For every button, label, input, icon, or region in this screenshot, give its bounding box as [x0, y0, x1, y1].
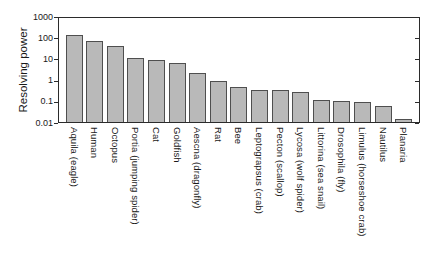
y-tick-mark-right — [415, 59, 419, 60]
bar — [189, 73, 206, 122]
y-tick-label: 1000 — [0, 12, 53, 23]
y-tick-mark-left — [54, 123, 58, 124]
y-tick-label: 10 — [0, 54, 53, 65]
category-label: Cat — [151, 127, 162, 142]
bar — [333, 101, 350, 122]
category-label: Lycosa (wolf spider) — [295, 127, 306, 213]
y-tick-label: 0.1 — [0, 96, 53, 107]
category-label: Rat — [213, 127, 224, 142]
bar — [86, 41, 103, 122]
y-tick-mark-left — [54, 102, 58, 103]
y-tick-mark-right — [415, 38, 419, 39]
y-tick-mark-right — [415, 17, 419, 18]
category-label: Bee — [233, 127, 244, 144]
category-label: Aescna (dragonfly) — [192, 127, 203, 209]
bar — [395, 119, 412, 122]
y-tick-mark-right — [415, 102, 419, 103]
bar — [148, 60, 165, 122]
bar — [354, 102, 371, 122]
bar — [292, 92, 309, 122]
y-tick-label: 0.01 — [0, 118, 53, 129]
category-label: Pecton (scallop) — [275, 127, 286, 197]
bar — [169, 63, 186, 122]
bar — [313, 100, 330, 122]
y-tick-mark-left — [54, 81, 58, 82]
bar — [272, 90, 289, 122]
category-label: Portia (jumping spider) — [130, 127, 141, 225]
category-label: Goldfish — [172, 127, 183, 163]
bar — [375, 106, 392, 122]
y-tick-mark-right — [415, 123, 419, 124]
resolving-power-bar-chart: Resolving power 10001001010.10.01Aquila … — [0, 0, 444, 267]
bar — [107, 46, 124, 122]
bar — [251, 90, 268, 122]
category-label: Drosophila (fly) — [336, 127, 347, 192]
y-tick-mark-left — [54, 38, 58, 39]
y-tick-label: 100 — [0, 33, 53, 44]
y-tick-mark-right — [415, 81, 419, 82]
category-label: Aquila (eagle) — [69, 127, 80, 187]
category-label: Limulus (horseshoe crab) — [357, 127, 368, 237]
y-tick-mark-left — [54, 59, 58, 60]
category-label: Littorina (sea snail) — [316, 127, 327, 209]
category-label: Nautilus — [378, 127, 389, 162]
y-tick-mark-left — [54, 17, 58, 18]
y-tick-label: 1 — [0, 75, 53, 86]
bar — [66, 35, 83, 122]
bar — [230, 87, 247, 122]
category-label: Leptograpsus (crab) — [254, 127, 265, 214]
category-label: Human — [89, 127, 100, 158]
category-label: Octopus — [110, 127, 121, 163]
bar — [210, 81, 227, 122]
category-label: Planaria — [398, 127, 409, 163]
bar — [127, 58, 144, 122]
